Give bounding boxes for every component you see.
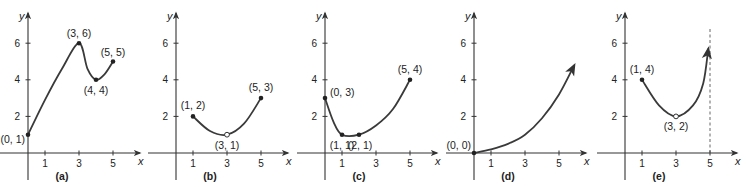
point-label: (5, 4): [398, 63, 423, 75]
y-tick-label: 6: [611, 38, 617, 49]
y-tick-label: 4: [460, 74, 466, 85]
filled-point-marker: [357, 132, 362, 137]
y-tick-label: 4: [611, 74, 617, 85]
point-label: (3, 1): [215, 139, 240, 151]
y-axis-label: y: [464, 10, 472, 22]
x-tick-label: 3: [224, 158, 230, 169]
panel-label: (b): [203, 170, 216, 182]
x-tick-label: 5: [258, 158, 264, 169]
y-tick-label: 4: [162, 74, 168, 85]
filled-point-marker: [94, 78, 99, 83]
panel-label: (e): [653, 170, 666, 182]
point-label: (3, 2): [664, 120, 689, 132]
y-tick-label: 6: [14, 38, 20, 49]
y-tick-label: 6: [311, 38, 317, 49]
function-curve: [474, 65, 574, 153]
x-axis-label: x: [583, 155, 590, 167]
filled-point-marker: [323, 96, 328, 101]
graph-panel-a: xy135246(0, 1)(3, 6)(4, 4)(5, 5)(a): [0, 10, 144, 182]
y-tick-label: 2: [611, 111, 617, 122]
panel-label: (d): [501, 170, 514, 182]
graph-panel-e: xy135246(1, 4)(3, 2)(e): [597, 10, 741, 182]
graph-panel-d: xy135246(0, 0)(d): [446, 10, 590, 182]
panel-label: (c): [353, 170, 366, 182]
x-tick-label: 3: [673, 158, 679, 169]
filled-point-marker: [259, 96, 264, 101]
x-tick-label: 5: [110, 158, 116, 169]
panel-label: (a): [56, 170, 69, 182]
y-tick-label: 6: [460, 38, 466, 49]
x-tick-label: 3: [373, 158, 379, 169]
filled-point-marker: [191, 114, 196, 119]
filled-point-marker: [340, 132, 345, 137]
point-label: (1, 2): [181, 99, 206, 111]
point-label: (5, 3): [249, 81, 274, 93]
y-tick-label: 2: [311, 111, 317, 122]
point-label: (0, 1): [0, 133, 25, 145]
x-tick-label: 1: [190, 158, 196, 169]
x-axis-label: x: [285, 155, 292, 167]
function-curve: [642, 49, 708, 117]
function-graphs-figure: xy135246(0, 1)(3, 6)(4, 4)(5, 5)(a)xy135…: [0, 0, 749, 187]
y-tick-label: 4: [311, 74, 317, 85]
filled-point-marker: [408, 78, 413, 83]
filled-point-marker: [26, 132, 31, 137]
point-label: (4, 4): [84, 84, 109, 96]
y-tick-label: 4: [14, 74, 20, 85]
point-label: (3, 6): [67, 27, 92, 39]
x-tick-label: 1: [42, 158, 48, 169]
filled-point-marker: [111, 59, 116, 64]
open-point-marker: [225, 132, 230, 137]
x-axis-label: x: [734, 155, 741, 167]
x-tick-label: 3: [76, 158, 82, 169]
y-axis-label: y: [18, 10, 26, 22]
x-tick-label: 1: [339, 158, 345, 169]
filled-point-marker: [472, 151, 477, 156]
x-tick-label: 5: [556, 158, 562, 169]
open-point-marker: [674, 114, 679, 119]
x-tick-label: 1: [639, 158, 645, 169]
y-axis-label: y: [315, 10, 323, 22]
y-axis-label: y: [615, 10, 623, 22]
filled-point-marker: [640, 78, 645, 83]
graph-panel-c: xy135246(0, 3)(1, 1)(2, 1)(5, 4)(c): [297, 10, 441, 182]
x-tick-label: 5: [407, 158, 413, 169]
point-label: (2, 1): [348, 139, 373, 151]
y-tick-label: 6: [162, 38, 168, 49]
y-axis-label: y: [166, 10, 174, 22]
x-axis-label: x: [434, 155, 441, 167]
filled-point-marker: [77, 41, 82, 46]
y-tick-label: 2: [460, 111, 466, 122]
point-label: (0, 0): [446, 139, 471, 151]
x-tick-label: 3: [522, 158, 528, 169]
x-tick-label: 1: [488, 158, 494, 169]
y-tick-label: 2: [14, 111, 20, 122]
graph-panel-b: xy135246(1, 2)(3, 1)(5, 3)(b): [148, 10, 292, 182]
point-label: (1, 4): [630, 63, 655, 75]
point-label: (5, 5): [101, 46, 126, 58]
x-tick-label: 5: [707, 158, 713, 169]
y-tick-label: 2: [162, 111, 168, 122]
x-axis-label: x: [137, 155, 144, 167]
point-label: (0, 3): [330, 86, 355, 98]
